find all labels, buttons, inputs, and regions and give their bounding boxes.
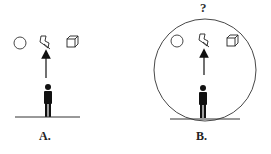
circle-icon — [14, 37, 26, 49]
panel-b — [154, 19, 256, 121]
lightning-icon — [199, 34, 209, 47]
panel-a — [14, 36, 80, 117]
cube-icon — [227, 35, 238, 46]
person-icon — [199, 85, 207, 118]
panel-label-a: A. — [39, 129, 51, 144]
question-mark: ? — [200, 0, 207, 16]
cube-icon — [67, 36, 78, 47]
circle-icon — [171, 35, 183, 47]
panel-label-b: B. — [196, 129, 207, 144]
person-icon — [44, 84, 52, 117]
lightning-icon — [40, 36, 50, 49]
